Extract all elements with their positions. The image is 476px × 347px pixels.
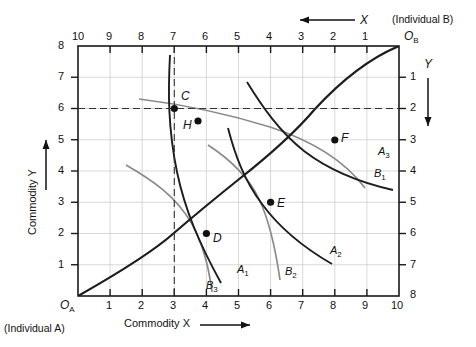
curve-label-A2-sub: 2 xyxy=(337,250,341,259)
axis-y-right-label: Y xyxy=(424,58,432,70)
origin-a-subscript: A xyxy=(69,305,74,314)
curve-A3 xyxy=(247,82,393,190)
x-top-tick-6: 6 xyxy=(202,31,208,42)
point-C xyxy=(171,105,178,112)
y-right-tick-6: 6 xyxy=(410,227,416,238)
origin-b-subscript: B xyxy=(413,36,418,45)
y-right-tick-5: 5 xyxy=(410,196,416,207)
axis-y-left-label: Commodity Y xyxy=(27,169,38,235)
curve-label-A1: A1 xyxy=(237,264,249,278)
x-bottom-tick-1: 1 xyxy=(106,300,112,311)
y-left-tick-4: 4 xyxy=(58,165,64,176)
curve-label-A3: A3 xyxy=(378,146,390,160)
curve-label-A1-sub: 1 xyxy=(244,269,248,278)
arrow-y-right xyxy=(425,78,432,126)
x-bottom-ticks xyxy=(110,289,367,296)
point-label-H: H xyxy=(183,119,192,131)
x-top-tick-8: 8 xyxy=(138,31,144,42)
curve-B3 xyxy=(126,165,212,292)
y-right-tick-1: 1 xyxy=(410,71,416,82)
curve-label-B2: B2 xyxy=(285,266,297,280)
y-left-tick-1: 1 xyxy=(58,259,64,270)
curve-label-B2-sub: 2 xyxy=(292,271,296,280)
x-top-tick-2: 2 xyxy=(330,31,336,42)
y-right-tick-7: 7 xyxy=(410,259,416,270)
point-label-C: C xyxy=(181,90,190,102)
point-label-F: F xyxy=(341,132,348,144)
arrow-x-top xyxy=(300,17,355,24)
point-label-D: D xyxy=(213,232,222,244)
point-H xyxy=(194,117,201,124)
y-right-tick-3: 3 xyxy=(410,134,416,145)
x-top-tick-1: 1 xyxy=(362,31,368,42)
y-right-tick-4: 4 xyxy=(410,165,416,176)
origin-a-letter: O xyxy=(60,298,69,312)
x-bottom-tick-7: 7 xyxy=(298,300,304,311)
y-left-ticks xyxy=(71,77,78,265)
point-F xyxy=(331,136,338,143)
y-left-tick-3: 3 xyxy=(58,196,64,207)
y-right-tick-8: 8 xyxy=(410,289,416,300)
origin-b-letter: O xyxy=(404,29,413,43)
y-left-tick-8: 8 xyxy=(58,40,64,51)
individual-b-caption: (Individual B) xyxy=(392,14,453,25)
x-top-tick-4: 4 xyxy=(266,31,272,42)
curve-label-A2: A2 xyxy=(330,245,342,259)
curve-label-A3-sub: 3 xyxy=(385,151,389,160)
x-bottom-tick-4: 4 xyxy=(202,300,208,311)
axis-x-top-label: X xyxy=(360,14,368,26)
curve-label-B3-sub: 3 xyxy=(213,285,217,294)
axis-x-bottom-text: Commodity X xyxy=(124,317,190,329)
x-bottom-tick-8: 8 xyxy=(330,300,336,311)
x-bottom-tick-2: 2 xyxy=(138,300,144,311)
x-bottom-tick-6: 6 xyxy=(266,300,272,311)
x-bottom-tick-3: 3 xyxy=(170,300,176,311)
curve-label-B3: B3 xyxy=(206,280,218,294)
x-top-tick-10: 10 xyxy=(72,31,84,42)
curve-label-B1-sub: 1 xyxy=(381,173,385,182)
curve-label-B1: B1 xyxy=(374,168,386,182)
individual-a-caption: (Individual A) xyxy=(4,323,65,334)
y-left-tick-7: 7 xyxy=(58,71,64,82)
point-E xyxy=(267,199,274,206)
point-D xyxy=(203,230,210,237)
x-top-tick-5: 5 xyxy=(234,31,240,42)
y-right-tick-2: 2 xyxy=(410,102,416,113)
origin-b-label: OB xyxy=(404,30,419,45)
y-right-ticks xyxy=(399,77,406,265)
axis-y-left-text: Commodity Y xyxy=(26,169,38,235)
arrow-x-bottom xyxy=(200,322,250,329)
x-top-ticks xyxy=(110,46,367,53)
axis-x-bottom-label: Commodity X xyxy=(124,318,190,329)
curve-A1 xyxy=(169,55,221,283)
y-left-tick-2: 2 xyxy=(58,227,64,238)
point-label-E: E xyxy=(277,197,285,209)
plot-svg xyxy=(0,0,476,347)
origin-a-label: OA xyxy=(60,299,75,314)
x-bottom-tick-9: 9 xyxy=(362,300,368,311)
x-bottom-tick-5: 5 xyxy=(234,300,240,311)
x-top-tick-9: 9 xyxy=(106,31,112,42)
y-left-tick-6: 6 xyxy=(58,102,64,113)
x-top-tick-3: 3 xyxy=(298,31,304,42)
arrow-y-left xyxy=(43,140,50,190)
edgeworth-box-figure: 1 2 3 4 5 6 7 8 9 10 10 9 8 7 6 5 4 3 2 … xyxy=(0,0,476,347)
y-left-tick-5: 5 xyxy=(58,134,64,145)
x-bottom-tick-10: 10 xyxy=(391,300,403,311)
x-top-tick-7: 7 xyxy=(170,31,176,42)
